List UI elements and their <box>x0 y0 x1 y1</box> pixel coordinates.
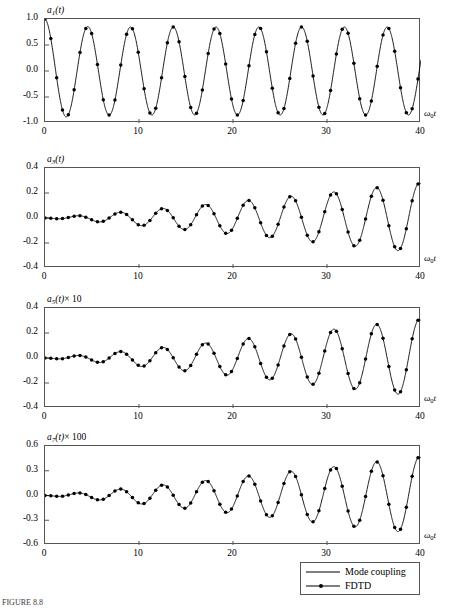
panel-2-x-tick-label: 20 <box>212 271 252 281</box>
panel-2-y-tick-label: -0.2 <box>2 236 38 246</box>
legend-line-marker-icon <box>306 581 340 591</box>
panel-1-plot-canvas <box>45 19 421 123</box>
panel-2-x-axis-label: ω0t <box>424 253 436 264</box>
panel-4-x-tick-label: 40 <box>400 548 440 558</box>
panel-1-x-tick-label: 30 <box>306 126 346 136</box>
panel-2-y-tick-label: 0.4 <box>2 161 38 171</box>
panel-2-y-axis-label: a3(t) <box>47 154 64 166</box>
panel-4-x-axis-label: ω0t <box>424 530 436 541</box>
panel-4-y-label-rest: (t) <box>55 432 64 442</box>
panel-2-plot-frame <box>44 167 420 267</box>
chart-legend: Mode coupling FDTD <box>300 562 420 595</box>
panel-3-y-axis-label: a5(t)× 10 <box>47 294 81 306</box>
panel-3-x-tick-label: 40 <box>400 411 440 421</box>
legend-entry-fdtd: FDTD <box>306 580 371 591</box>
series-markers-fdtd <box>45 456 420 531</box>
panel-4-y-tick-label: -0.6 <box>2 538 38 548</box>
panel-1-x-axis-label: ω0t <box>424 108 436 119</box>
panel-4-x-tick-label: 30 <box>306 548 346 558</box>
series-line-mode-coupling <box>45 19 421 117</box>
panel-4-y-tick-label: 0.6 <box>2 439 38 449</box>
chart-panel-a3: a3(t) ω0t 0.40.20.0-0.2-0.4010203040 <box>0 142 455 290</box>
panel-3-y-tick-label: 0.0 <box>2 351 38 361</box>
panel-1-x-tick-label: 0 <box>24 126 64 136</box>
figure-root: a1(t) ω0t 1.00.50.0-0.5-1.0010203040 a3(… <box>0 0 455 611</box>
panel-4-x-tick-label: 20 <box>212 548 252 558</box>
panel-1-y-tick-label: 0.5 <box>2 38 38 48</box>
panel-4-y-tick-label: 0.3 <box>2 464 38 474</box>
panel-1-y-axis-label: a1(t) <box>47 5 64 17</box>
panel-3-x-axis-label: ω0t <box>424 393 436 404</box>
panel-1-x-tick-label: 10 <box>118 126 158 136</box>
panel-1-plot-frame <box>44 18 420 122</box>
series-markers-fdtd <box>45 318 420 393</box>
panel-1-y-tick-label: 0.0 <box>2 64 38 74</box>
panel-3-x-tick-label: 30 <box>306 411 346 421</box>
panel-4-x-tick-label: 0 <box>24 548 64 558</box>
panel-2-y-tick-label: 0.0 <box>2 211 38 221</box>
panel-3-y-tick-label: -0.4 <box>2 401 38 411</box>
panel-4-x-tick-label: 10 <box>118 548 158 558</box>
chart-panel-a5: a5(t)× 10 ω0t 0.40.20.0-0.2-0.4010203040 <box>0 282 455 430</box>
panel-4-y-label-scale: × 100 <box>64 432 86 442</box>
panel-2-x-tick-label: 0 <box>24 271 64 281</box>
panel-1-y-tick-label: 1.0 <box>2 12 38 22</box>
series-line-mode-coupling <box>45 457 421 532</box>
panel-3-plot-canvas <box>45 308 421 408</box>
legend-label-mode-coupling: Mode coupling <box>345 566 406 577</box>
panel-1-y-tick-label: -0.5 <box>2 90 38 100</box>
chart-panel-a7: a7(t)× 100 ω0t 0.60.30.0-0.3-0.601020304… <box>0 422 455 562</box>
legend-entry-mode-coupling: Mode coupling <box>306 566 406 577</box>
series-line-mode-coupling <box>45 319 421 394</box>
panel-4-plot-canvas <box>45 446 421 545</box>
panel-3-y-tick-label: 0.4 <box>2 301 38 311</box>
panel-1-y-label-rest: (t) <box>55 5 64 15</box>
figure-caption: FIGURE 8.8 <box>2 598 43 607</box>
series-markers-fdtd <box>45 182 420 250</box>
panel-3-y-tick-label: 0.2 <box>2 326 38 336</box>
panel-4-plot-frame <box>44 445 420 544</box>
panel-2-y-tick-label: 0.2 <box>2 186 38 196</box>
legend-line-icon <box>306 567 340 577</box>
panel-3-plot-frame <box>44 307 420 407</box>
panel-3-x-tick-label: 20 <box>212 411 252 421</box>
panel-4-y-tick-label: -0.3 <box>2 513 38 523</box>
panel-3-y-label-scale: × 10 <box>64 294 81 304</box>
panel-1-y-tick-label: -1.0 <box>2 116 38 126</box>
panel-3-y-tick-label: -0.2 <box>2 376 38 386</box>
panel-2-y-tick-label: -0.4 <box>2 261 38 271</box>
panel-3-x-tick-label: 10 <box>118 411 158 421</box>
panel-2-plot-canvas <box>45 168 421 268</box>
panel-3-y-label-rest: (t) <box>55 294 64 304</box>
panel-1-x-tick-label: 20 <box>212 126 252 136</box>
panel-2-x-tick-label: 10 <box>118 271 158 281</box>
chart-panel-a1: a1(t) ω0t 1.00.50.0-0.5-1.0010203040 <box>0 0 455 150</box>
panel-4-y-tick-label: 0.0 <box>2 489 38 499</box>
panel-1-x-tick-label: 40 <box>400 126 440 136</box>
panel-2-y-label-rest: (t) <box>55 154 64 164</box>
panel-3-x-tick-label: 0 <box>24 411 64 421</box>
panel-2-x-tick-label: 30 <box>306 271 346 281</box>
panel-2-x-tick-label: 40 <box>400 271 440 281</box>
panel-4-y-axis-label: a7(t)× 100 <box>47 432 86 444</box>
legend-label-fdtd: FDTD <box>345 580 371 591</box>
series-line-mode-coupling <box>45 183 421 250</box>
